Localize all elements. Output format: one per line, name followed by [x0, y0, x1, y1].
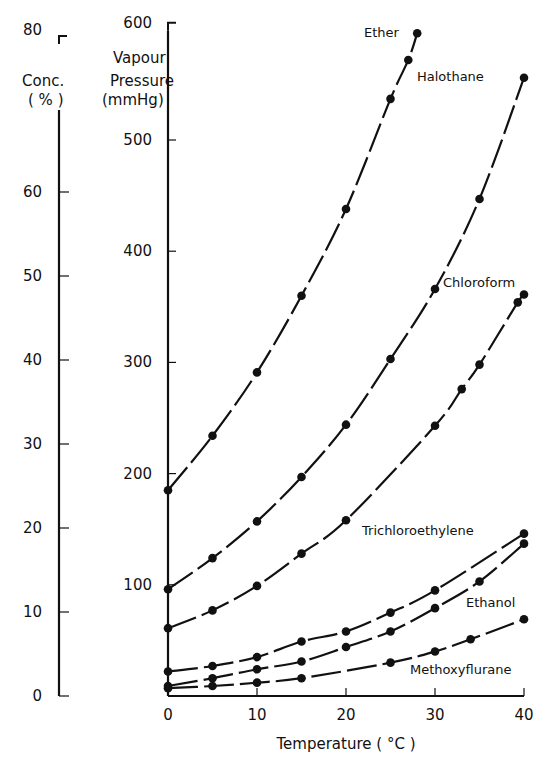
methoxyflurane-point	[466, 635, 475, 644]
ethanol-point	[386, 627, 395, 636]
labels-layer: EtherHalothaneChloroformTrichloroethylen…	[361, 25, 515, 677]
ethanol-point	[431, 604, 440, 613]
series-layer	[164, 29, 529, 693]
temperature-tick-label: 30	[425, 706, 444, 724]
temperature-tick-label: 0	[163, 706, 173, 724]
concentration-tick-label: 20	[23, 519, 42, 537]
ether-point	[386, 95, 395, 104]
temperature-tick-label: 40	[514, 706, 533, 724]
pressure-axis-cap	[168, 23, 176, 31]
vapour-header: Vapour	[113, 49, 166, 67]
halothane-label: Halothane	[417, 69, 484, 84]
temperature-tick-label: 20	[336, 706, 355, 724]
pressure-tick-label: 100	[123, 576, 152, 594]
ethanol-point	[253, 665, 262, 674]
pressure-tick-label: 400	[123, 242, 152, 260]
chloroform-point	[297, 549, 306, 558]
pressure-tick-label: 200	[123, 465, 152, 483]
ether-point	[342, 205, 351, 214]
trichloroethylene-point	[164, 667, 173, 676]
ether-point	[208, 431, 217, 440]
ethanol-point	[520, 539, 529, 548]
ether-curve	[168, 33, 417, 490]
ethanol-point	[208, 674, 217, 683]
trichloroethylene-point	[297, 637, 306, 646]
vapour-pressure-chart: 1002003004005006000102030405060800102030…	[0, 0, 555, 762]
percent-header: ( % )	[28, 91, 64, 109]
halothane-point	[386, 355, 395, 364]
halothane-point	[342, 420, 351, 429]
trichloroethylene-point	[386, 608, 395, 617]
concentration-tick-label: 0	[32, 687, 42, 705]
chloroform-label: Chloroform	[443, 275, 515, 290]
chloroform-curve	[168, 294, 524, 628]
concentration-tick-label: 40	[23, 351, 42, 369]
halothane-point	[164, 585, 173, 594]
chloroform-point	[431, 421, 440, 430]
chloroform-point	[520, 290, 529, 299]
chloroform-point	[208, 606, 217, 615]
chloroform-point	[342, 516, 351, 525]
conc-header: Conc.	[22, 72, 64, 90]
methoxyflurane-point	[520, 615, 529, 624]
halothane-point	[520, 73, 529, 82]
concentration-tick-label: 60	[23, 183, 42, 201]
trichloroethylene-point	[253, 653, 262, 662]
halothane-point	[208, 554, 217, 563]
trichloroethylene-point	[342, 627, 351, 636]
concentration-axis-cap	[59, 36, 67, 44]
trichloroethylene-point	[520, 529, 529, 538]
chloroform-point	[164, 624, 173, 633]
halothane-point	[475, 195, 484, 204]
concentration-tick-label: 30	[23, 435, 42, 453]
pressure-tick-label: 300	[123, 353, 152, 371]
methoxyflurane-point	[386, 658, 395, 667]
ethanol-point	[342, 643, 351, 652]
concentration-tick-label: 80	[23, 21, 42, 39]
ether-point	[164, 486, 173, 495]
chloroform-point	[253, 582, 262, 591]
methoxyflurane-point	[297, 674, 306, 683]
ether-point	[253, 368, 262, 377]
x-axis-title: Temperature ( °C )	[276, 735, 416, 753]
temperature-tick-label: 10	[247, 706, 266, 724]
pressure-tick-label: 600	[123, 14, 152, 32]
ether-label: Ether	[364, 25, 400, 40]
mmhg-header: (mmHg)	[102, 91, 164, 109]
concentration-tick-label: 50	[23, 267, 42, 285]
methoxyflurane-point	[253, 678, 262, 687]
methoxyflurane-point	[208, 682, 217, 691]
axes: 1002003004005006000102030405060800102030…	[23, 14, 534, 724]
chloroform-point	[475, 360, 484, 369]
halothane-point	[253, 517, 262, 526]
halothane-curve	[168, 78, 524, 590]
halothane-point	[431, 285, 440, 294]
ethanol-point	[475, 577, 484, 586]
methoxyflurane-label: Methoxyflurane	[410, 662, 511, 677]
ethanol-label: Ethanol	[466, 595, 515, 610]
trichloroethylene-label: Trichloroethylene	[361, 523, 474, 538]
ether-point	[297, 291, 306, 300]
methoxyflurane-point	[164, 684, 173, 693]
trichloroethylene-point	[208, 662, 217, 671]
ethanol-point	[297, 657, 306, 666]
ether-point	[404, 56, 413, 65]
pressure-tick-label: 500	[123, 131, 152, 149]
concentration-tick-label: 10	[23, 603, 42, 621]
chloroform-point	[457, 385, 466, 394]
halothane-point	[297, 473, 306, 482]
ether-point	[413, 29, 422, 38]
chloroform-point	[513, 298, 522, 307]
trichloroethylene-point	[431, 586, 440, 595]
methoxyflurane-point	[431, 647, 440, 656]
pressure-header: Pressure	[110, 72, 174, 90]
